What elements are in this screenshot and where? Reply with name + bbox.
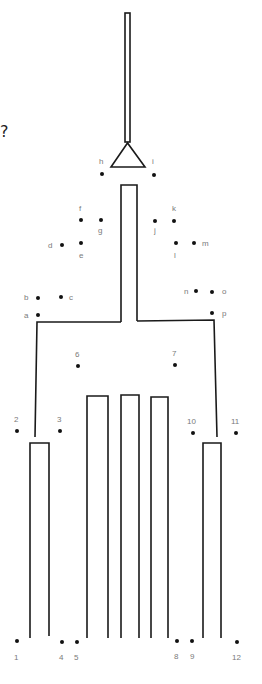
letter-dot-a: a	[24, 311, 40, 320]
number-dot-10: 10	[187, 417, 196, 435]
letter-dot-e: e	[79, 241, 84, 260]
dot-label: p	[222, 309, 227, 318]
dot-label: l	[174, 251, 176, 260]
dot-label: 8	[174, 652, 179, 661]
dot-point	[99, 218, 103, 222]
dot-label: 6	[75, 350, 80, 359]
number-dot-4: 4	[59, 640, 64, 662]
dot-point	[175, 639, 179, 643]
number-dot-9: 9	[190, 639, 195, 661]
dot-point	[15, 639, 19, 643]
spire-antenna	[125, 13, 130, 142]
dot-label: 4	[59, 653, 64, 662]
dot-point	[36, 313, 40, 317]
number-dot-6: 6	[75, 350, 80, 368]
dot-label: m	[202, 239, 209, 248]
letter-dot-n: n	[184, 287, 198, 296]
inner-column-right	[151, 397, 168, 638]
dot-point	[192, 241, 196, 245]
dot-point	[100, 172, 104, 176]
number-dot-12: 12	[232, 640, 241, 662]
dot-label: 1	[14, 653, 19, 662]
dot-label: 3	[57, 415, 62, 424]
dot-label: 2	[14, 415, 19, 424]
dot-point	[190, 639, 194, 643]
dot-point	[79, 241, 83, 245]
number-dot-1: 1	[14, 639, 19, 662]
dot-point	[172, 219, 176, 223]
dot-point	[153, 219, 157, 223]
inner-column-left	[87, 396, 108, 638]
number-dot-5: 5	[74, 640, 79, 662]
dot-point	[36, 296, 40, 300]
number-dot-2: 2	[14, 415, 19, 433]
letter-dot-h: h	[99, 157, 104, 176]
letter-dot-f: f	[79, 204, 83, 222]
dot-label: c	[69, 293, 73, 302]
inner-column-middle	[121, 395, 139, 638]
letter-dot-o: o	[210, 287, 227, 296]
dot-label: j	[153, 226, 156, 235]
spire-triangle	[111, 143, 145, 167]
letter-dot-k: k	[172, 204, 177, 223]
dot-point	[210, 290, 214, 294]
dot-point	[79, 218, 83, 222]
number-dot-8: 8	[174, 639, 179, 661]
dot-label: h	[99, 157, 103, 166]
letter-dot-i: i	[152, 157, 156, 177]
dot-label: 12	[232, 653, 241, 662]
dot-label: 10	[187, 417, 196, 426]
dot-label: 7	[172, 349, 177, 358]
number-dot-11: 11	[231, 417, 240, 435]
dot-label: a	[24, 311, 29, 320]
letter-dot-j: j	[153, 219, 157, 235]
dot-point	[58, 429, 62, 433]
dot-label: e	[79, 251, 84, 260]
letter-dot-b: b	[24, 293, 40, 302]
dot-point	[59, 295, 63, 299]
letter-dot-p: p	[210, 309, 227, 318]
letter-dot-m: m	[192, 239, 209, 248]
number-dot-7: 7	[172, 349, 177, 367]
number-dot-3: 3	[57, 415, 62, 433]
dot-to-dot-drawing: abcdefghijklmnop 123456789101112	[0, 0, 262, 684]
letter-dot-l: l	[174, 241, 178, 260]
dot-label: f	[79, 204, 82, 213]
dot-label: n	[184, 287, 188, 296]
right-leg	[203, 443, 221, 638]
dot-point	[75, 640, 79, 644]
dot-point	[60, 243, 64, 247]
dot-label: 5	[74, 653, 79, 662]
dot-label: 11	[231, 417, 240, 426]
dot-point	[235, 640, 239, 644]
dot-label: g	[98, 226, 102, 235]
dot-label: d	[48, 241, 52, 250]
letter-dot-c: c	[59, 293, 73, 302]
dot-point	[173, 363, 177, 367]
dot-point	[210, 311, 214, 315]
dot-point	[191, 431, 195, 435]
dot-point	[152, 173, 156, 177]
dot-point	[76, 364, 80, 368]
dot-point	[234, 431, 238, 435]
dot-point	[174, 241, 178, 245]
dot-label: i	[152, 157, 154, 166]
dot-point	[60, 640, 64, 644]
left-leg	[30, 443, 49, 638]
letter-dots: abcdefghijklmnop	[24, 157, 227, 320]
dot-label: k	[172, 204, 177, 213]
dot-label: b	[24, 293, 29, 302]
number-dots: 123456789101112	[14, 349, 241, 662]
letter-dot-d: d	[48, 241, 64, 250]
letter-dot-g: g	[98, 218, 103, 235]
dot-label: 9	[190, 652, 195, 661]
dot-point	[194, 289, 198, 293]
dot-point	[15, 429, 19, 433]
right-wing	[137, 320, 217, 437]
dot-label: o	[222, 287, 227, 296]
central-column	[121, 185, 137, 322]
